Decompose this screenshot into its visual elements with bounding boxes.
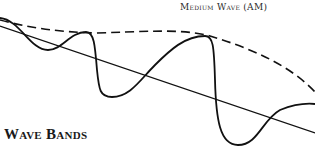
baseline-axis <box>0 26 315 133</box>
envelope-label: Medium Wave (AM) <box>180 2 267 12</box>
dashed-envelope <box>0 20 315 92</box>
diagram-title: Wave Bands <box>4 126 88 143</box>
